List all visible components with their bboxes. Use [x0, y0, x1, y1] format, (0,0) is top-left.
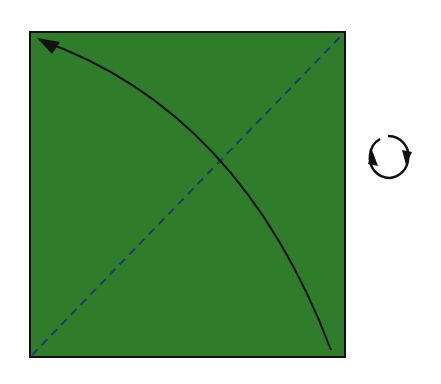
turn-over-icon	[368, 136, 412, 178]
origami-diagram	[0, 0, 441, 384]
